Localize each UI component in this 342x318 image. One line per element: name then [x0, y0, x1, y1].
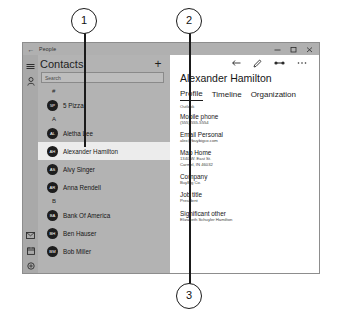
- contact-name: Alexander Hamilton: [180, 72, 311, 84]
- search-wrapper: Search: [38, 72, 170, 83]
- avatar: 5P: [47, 100, 58, 111]
- tab-organization[interactable]: Organization: [251, 90, 296, 101]
- callout-1-marker: 1: [71, 8, 97, 34]
- tab-profile[interactable]: Profile: [180, 89, 203, 101]
- callout-3-marker: 3: [176, 283, 202, 309]
- list-item[interactable]: ASAlvy Singer: [38, 160, 170, 178]
- pencil-edit-icon[interactable]: [253, 59, 262, 68]
- contacts-header: Contacts +: [38, 55, 170, 72]
- list-item-label: Aletha Lee: [63, 130, 93, 137]
- list-item[interactable]: ALAletha Lee: [38, 124, 170, 142]
- group-letter: B: [38, 196, 170, 206]
- list-item[interactable]: AHAlexander Hamilton: [38, 142, 170, 160]
- mail-icon[interactable]: [24, 230, 37, 245]
- contacts-title: Contacts: [40, 58, 152, 70]
- contact-detail-pane: Alexander Hamilton ProfileTimelineOrgani…: [170, 55, 319, 274]
- list-item-label: Ben Hauser: [63, 230, 96, 237]
- back-arrow-icon[interactable]: ←: [23, 46, 39, 53]
- contacts-list-panel: Contacts + Search #5P5 PizzaAALAletha Le…: [38, 55, 170, 274]
- detail-field-value: 1340 W. East St.Carmel, IN 46032: [180, 156, 311, 168]
- account-source-label: Outlook: [180, 104, 311, 109]
- detail-field-value: alex@buybigco.com: [180, 138, 311, 144]
- avatar: BH: [47, 228, 58, 239]
- detail-field[interactable]: Significant otherElizabeth Schuyler Hami…: [180, 210, 311, 223]
- callout-2-leader: [189, 33, 191, 158]
- list-item-label: Alexander Hamilton: [63, 148, 118, 155]
- avatar: AH: [47, 146, 58, 157]
- list-item[interactable]: BABank Of America: [38, 206, 170, 224]
- list-item-label: 5 Pizza: [63, 102, 84, 109]
- detail-field-label: Job title: [180, 191, 311, 198]
- callout-2-marker: 2: [176, 8, 202, 34]
- detail-toolbar: [180, 57, 311, 69]
- contact-list[interactable]: #5P5 PizzaAALAletha LeeAHAlexander Hamil…: [38, 83, 170, 274]
- settings-icon[interactable]: [24, 260, 37, 274]
- group-letter: A: [38, 114, 170, 124]
- avatar: AL: [47, 128, 58, 139]
- detail-field-value: Elizabeth Schuyler Hamilton: [180, 217, 311, 223]
- hamburger-menu-icon[interactable]: [24, 59, 37, 74]
- people-app-window: ← People: [22, 42, 320, 274]
- maximize-icon[interactable]: [285, 43, 301, 55]
- group-letter: #: [38, 86, 170, 96]
- detail-field[interactable]: CompanyBuyBig Co.: [180, 173, 311, 186]
- callout-3-leader: [189, 158, 191, 284]
- detail-fields: Mobile phone(555) 555-5554Email Personal…: [180, 113, 311, 223]
- detail-field[interactable]: Email Personalalex@buybigco.com: [180, 131, 311, 144]
- detail-field-value: (555) 555-5554: [180, 120, 311, 126]
- detail-field-value: BuyBig Co.: [180, 180, 311, 186]
- people-icon[interactable]: [24, 74, 37, 89]
- avatar: BM: [47, 246, 58, 257]
- more-options-icon[interactable]: [297, 61, 307, 65]
- detail-field-label: Significant other: [180, 210, 311, 217]
- calendar-icon[interactable]: [24, 245, 37, 260]
- close-icon[interactable]: [301, 43, 317, 55]
- list-item-label: Anna Rendell: [63, 184, 101, 191]
- search-placeholder: Search: [45, 75, 61, 81]
- list-item-label: Bank Of America: [63, 212, 110, 219]
- avatar: AS: [47, 164, 58, 175]
- detail-field-label: Mobile phone: [180, 113, 311, 120]
- list-item[interactable]: ARAnna Rendell: [38, 178, 170, 196]
- pin-icon[interactable]: [232, 59, 241, 67]
- screenshot-root: 1 2 3 ← People: [0, 0, 342, 318]
- window-controls: [269, 43, 317, 55]
- list-item-label: Alvy Singer: [63, 166, 95, 173]
- navigation-rail: [23, 55, 38, 274]
- window-title: People: [39, 46, 56, 52]
- detail-field-label: Company: [180, 173, 311, 180]
- detail-field-value: President: [180, 198, 311, 204]
- minimize-icon[interactable]: [269, 43, 285, 55]
- detail-field-label: Email Personal: [180, 131, 311, 138]
- search-input[interactable]: Search: [41, 72, 164, 83]
- app-body: Contacts + Search #5P5 PizzaAALAletha Le…: [23, 55, 319, 274]
- detail-field-label: Map Home: [180, 149, 311, 156]
- avatar: AR: [47, 182, 58, 193]
- detail-tabs: ProfileTimelineOrganization: [180, 89, 311, 101]
- detail-field[interactable]: Job titlePresident: [180, 191, 311, 204]
- callout-1-leader: [84, 33, 86, 147]
- list-item[interactable]: 5P5 Pizza: [38, 96, 170, 114]
- list-item[interactable]: BMBob Miller: [38, 242, 170, 260]
- list-item-label: Bob Miller: [63, 248, 91, 255]
- tab-timeline[interactable]: Timeline: [212, 90, 242, 101]
- share-link-icon[interactable]: [274, 60, 285, 66]
- list-item[interactable]: BHBen Hauser: [38, 224, 170, 242]
- avatar: BA: [47, 210, 58, 221]
- detail-field[interactable]: Mobile phone(555) 555-5554: [180, 113, 311, 126]
- title-bar: ← People: [23, 43, 319, 55]
- add-contact-icon[interactable]: +: [152, 58, 164, 70]
- detail-field[interactable]: Map Home1340 W. East St.Carmel, IN 46032: [180, 149, 311, 168]
